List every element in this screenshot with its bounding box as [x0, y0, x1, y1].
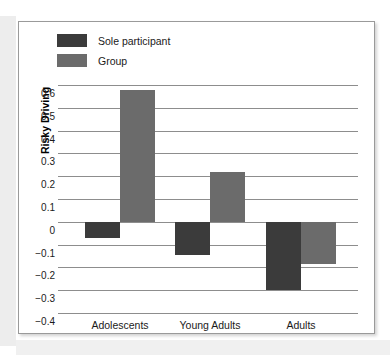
- y-tick-label: 0.5: [25, 111, 55, 122]
- y-tick-label: −0.3: [25, 293, 55, 304]
- chart-legend: Sole participantGroup: [57, 32, 170, 72]
- y-tick-label: 0: [25, 225, 55, 236]
- bar: [266, 222, 301, 290]
- legend-item-label: Sole participant: [98, 35, 170, 47]
- bar: [175, 222, 210, 255]
- legend-group-swatch: [57, 54, 87, 67]
- bar: [120, 90, 155, 222]
- bar: [210, 172, 245, 222]
- x-tick-label: Young Adults: [180, 319, 241, 331]
- bar: [85, 222, 120, 238]
- x-tick-label: Adults: [286, 319, 315, 331]
- x-tick-label: Adolescents: [91, 319, 148, 331]
- legend-item: Sole participant: [57, 32, 170, 49]
- y-tick-label: −0.1: [25, 248, 55, 259]
- legend-sole-participant-swatch: [57, 34, 87, 47]
- bars-group: [58, 85, 358, 313]
- bar: [301, 222, 336, 264]
- gridline: [58, 313, 358, 314]
- legend-item: Group: [57, 52, 170, 69]
- y-tick-label: −0.4: [25, 316, 55, 327]
- y-tick-label: −0.2: [25, 270, 55, 281]
- y-tick-label: 0.4: [25, 134, 55, 145]
- figure-frame: Sole participantGroup Risky Driving 0.60…: [18, 21, 375, 334]
- scan-edge-left: [0, 16, 16, 346]
- y-tick-label: 0.2: [25, 179, 55, 190]
- y-tick-label: 0.3: [25, 156, 55, 167]
- plot-area: 0.60.50.40.30.20.10−0.1−0.2−0.3−0.4: [58, 85, 358, 313]
- y-tick-label: 0.6: [25, 88, 55, 99]
- y-tick-label: 0.1: [25, 202, 55, 213]
- legend-item-label: Group: [98, 55, 127, 67]
- scan-edge-bottom: [16, 340, 390, 355]
